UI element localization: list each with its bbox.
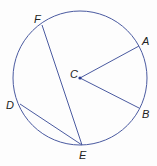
radius-ca [80,46,139,78]
circle-diagram: A B C D E F [0,0,157,166]
label-a: A [141,35,149,47]
radius-cb [80,78,139,108]
label-b: B [142,108,149,120]
label-e: E [79,149,87,161]
label-d: D [6,99,14,111]
center-point-c [78,76,81,79]
diagram-svg: A B C D E F [0,0,157,166]
label-c: C [70,68,78,80]
chord-fe [42,25,82,145]
